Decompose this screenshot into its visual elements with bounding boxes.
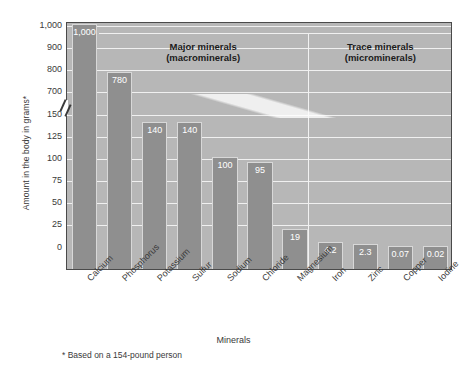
chart-footnote: * Based on a 154-pound person bbox=[62, 350, 182, 360]
x-category-label: Iodine bbox=[436, 259, 460, 283]
x-axis-category-labels: CalciumPhosphorusPotassiumSulfurSodiumCh… bbox=[0, 0, 467, 367]
x-category-label: Sulfur bbox=[190, 259, 214, 283]
x-category-label: Chloride bbox=[260, 252, 291, 283]
x-category-label: Calcium bbox=[85, 253, 115, 283]
x-category-label: Zinc bbox=[366, 264, 385, 283]
x-category-label: Magnesium bbox=[295, 243, 335, 283]
x-category-label: Copper bbox=[401, 255, 429, 283]
x-category-label: Sodium bbox=[225, 254, 254, 283]
x-category-label: Potassium bbox=[155, 246, 192, 283]
x-category-label: Iron bbox=[330, 265, 348, 283]
mineral-bar-chart: Amount in the body in grams* 1,000900800… bbox=[0, 0, 467, 367]
x-axis-title: Minerals bbox=[0, 335, 467, 345]
x-category-label: Phosphorus bbox=[120, 242, 161, 283]
